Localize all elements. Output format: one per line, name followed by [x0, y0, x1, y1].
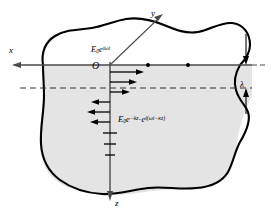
axis-dot	[186, 63, 190, 67]
incident-field-label: E0eiωt	[91, 45, 110, 55]
origin-label: O	[92, 61, 99, 71]
y-axis-line	[110, 17, 160, 65]
x-axis-arrowhead	[12, 62, 21, 68]
x-axis-label: x	[9, 46, 13, 55]
medium-fill	[40, 65, 252, 195]
y-axis-arrowhead	[154, 14, 163, 21]
skin-depth-diagram: x y z O λ E0eiωt E0e−kz·ei(ωt−κz)	[0, 0, 271, 221]
attenuated-exponent1: −kz	[130, 115, 139, 121]
conducting-medium-region	[40, 65, 252, 195]
axis-dot	[146, 63, 150, 67]
z-axis-label: z	[115, 199, 119, 208]
y-axis-label: y	[151, 9, 155, 18]
wavelength-label: λ	[240, 80, 244, 89]
incident-exponent: iωt	[103, 45, 110, 51]
attenuated-exponent2: i(ωt−κz)	[145, 115, 165, 121]
diagram-canvas	[0, 0, 271, 221]
attenuated-field-label: E0e−kz·ei(ωt−κz)	[118, 115, 165, 125]
z-axis-arrowhead	[107, 191, 113, 201]
